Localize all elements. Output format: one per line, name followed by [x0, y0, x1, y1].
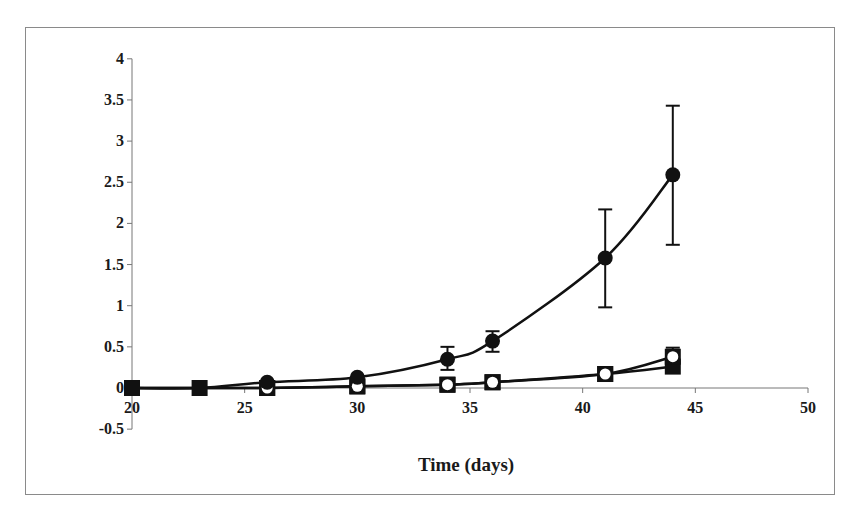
- open-circle-marker: [442, 379, 453, 390]
- y-tick-label: 1: [116, 297, 124, 314]
- x-tick-label: 25: [237, 399, 253, 416]
- y-tick-label: 2: [116, 214, 124, 231]
- y-tick-label: -0.5: [99, 420, 124, 437]
- x-axis: 20253035404550: [124, 388, 816, 416]
- open-circle-marker: [600, 369, 611, 380]
- y-tick-label: 0.5: [104, 338, 124, 355]
- filled-circle-marker: [440, 352, 455, 367]
- x-tick-label: 45: [687, 399, 703, 416]
- line-chart: -0.500.511.522.533.54 20253035404550 Tim…: [0, 0, 856, 523]
- x-tick-label: 20: [124, 399, 140, 416]
- filled-circle-marker: [598, 250, 613, 265]
- filled-circle-marker: [260, 375, 275, 390]
- x-tick-label: 35: [462, 399, 478, 416]
- series-line-open-circle: [132, 357, 673, 388]
- series-layer: [124, 106, 681, 396]
- y-tick-label: 0: [116, 379, 124, 396]
- filled-circle-marker: [665, 167, 680, 182]
- y-tick-label: 1.5: [104, 256, 124, 273]
- x-tick-label: 40: [575, 399, 591, 416]
- filled-square-marker: [192, 380, 208, 396]
- y-tick-label: 2.5: [104, 173, 124, 190]
- open-circle-marker: [667, 351, 678, 362]
- filled-circle-marker: [485, 334, 500, 349]
- open-circle-marker: [487, 377, 498, 388]
- x-tick-label: 50: [800, 399, 816, 416]
- y-tick-label: 3: [116, 132, 124, 149]
- y-axis: -0.500.511.522.533.54: [99, 50, 132, 437]
- filled-circle-marker: [350, 370, 365, 385]
- x-axis-title: Time (days): [418, 454, 514, 476]
- y-tick-label: 3.5: [104, 91, 124, 108]
- x-tick-label: 30: [349, 399, 365, 416]
- series-line-filled-circle: [132, 175, 673, 389]
- filled-square-marker: [124, 380, 140, 396]
- y-tick-label: 4: [116, 50, 124, 67]
